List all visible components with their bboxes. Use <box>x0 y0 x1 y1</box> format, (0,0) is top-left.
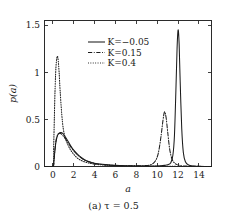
y-tick-label: 1 <box>34 68 40 78</box>
y-tick-label: 0.5 <box>26 115 41 125</box>
legend-label-2: K=0.4 <box>108 58 137 68</box>
y-axis-tick-labels: 00.511.5 <box>26 20 41 171</box>
legend: K=−0.05K=0.15K=0.4 <box>88 37 150 68</box>
curve-series-2 <box>45 56 212 168</box>
y-tick-label: 1.5 <box>26 20 41 30</box>
figure-container: 02468101214 00.511.5 a p(a) K=−0.05K=0.1… <box>0 0 227 223</box>
x-tick-label: 2 <box>71 170 77 180</box>
y-axis-label: p(a) <box>7 84 18 103</box>
y-tick-label: 0 <box>34 162 40 172</box>
x-tick-label: 8 <box>133 170 139 180</box>
legend-label-1: K=0.15 <box>108 48 143 58</box>
x-tick-label: 0 <box>50 170 56 180</box>
x-tick-label: 14 <box>193 170 205 180</box>
figure-caption: (a) τ = 0.5 <box>88 200 138 211</box>
x-tick-label: 10 <box>151 170 163 180</box>
x-axis-tick-labels: 02468101214 <box>50 170 205 180</box>
x-tick-label: 6 <box>113 170 119 180</box>
x-tick-label: 4 <box>92 170 98 180</box>
probability-density-plot: 02468101214 00.511.5 a p(a) K=−0.05K=0.1… <box>0 0 227 223</box>
legend-label-0: K=−0.05 <box>108 37 150 47</box>
x-axis-label: a <box>125 183 131 194</box>
x-tick-label: 12 <box>172 170 183 180</box>
curve-series-1 <box>45 112 212 167</box>
